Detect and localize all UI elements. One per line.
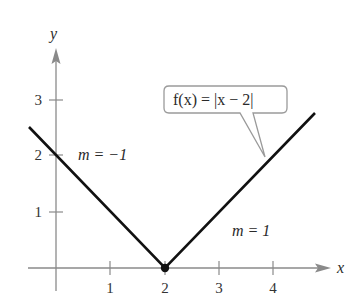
x-tick-label-4: 4 [269, 280, 277, 296]
y-tick-label-3: 3 [35, 92, 43, 108]
function-callout: f(x) = |x − 2| [164, 86, 287, 157]
x-tick-label-2: 2 [161, 280, 169, 296]
callout-text: f(x) = |x − 2| [173, 91, 253, 109]
x-tick-label-1: 1 [106, 280, 114, 296]
y-axis-label: y [48, 25, 58, 43]
slope-right-label: m = 1 [232, 222, 270, 239]
y-tick-label-2: 2 [35, 147, 43, 163]
slope-left-label: m = −1 [78, 146, 127, 163]
function-line [29, 113, 315, 268]
slope-left-text: m = −1 [78, 146, 127, 163]
x-tick-label-3: 3 [215, 280, 223, 296]
x-axis [28, 261, 331, 275]
slope-right-text: m = 1 [232, 222, 270, 239]
vertex-point [161, 264, 169, 272]
y-axis [49, 48, 63, 291]
absolute-value-graph: 1 2 3 4 1 2 3 x y m = −1 m = 1 f(x) = |x… [0, 0, 354, 301]
x-axis-label: x [336, 259, 344, 276]
y-tick-label-1: 1 [35, 204, 43, 220]
